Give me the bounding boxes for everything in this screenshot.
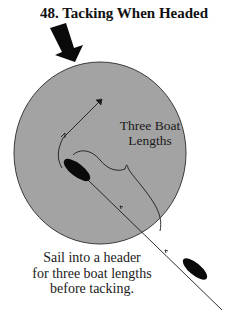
caption-line2: for three boat lengths [12, 266, 172, 282]
boat-outside-icon [180, 255, 211, 283]
wind-arrow-icon [50, 23, 83, 62]
caption: Sail into a header for three boat length… [12, 250, 172, 297]
caption-line1: Sail into a header [12, 250, 172, 266]
zone-label-line1: Three Boat [115, 118, 185, 133]
zone-label-line2: Lengths [115, 133, 185, 148]
zone-label: Three Boat Lengths [115, 118, 185, 148]
caption-line3: before tacking. [12, 281, 172, 297]
zone-circle [14, 62, 186, 244]
